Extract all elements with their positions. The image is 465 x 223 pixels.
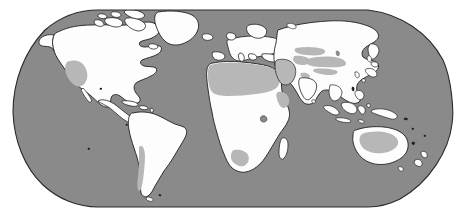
newfoundland — [149, 44, 159, 49]
arid-sahara — [208, 62, 280, 96]
korea-peninsula — [355, 72, 359, 78]
arctic-islet-a — [111, 12, 121, 18]
lake-victoria — [260, 116, 267, 122]
iceland-landmass — [202, 34, 213, 41]
italy-peninsula — [238, 53, 244, 61]
moluccas-islet — [367, 104, 371, 108]
world-map-canvas — [0, 0, 465, 223]
kyushu-island — [362, 79, 366, 83]
world-map-figure — [0, 0, 465, 223]
lesser-antilles — [150, 108, 153, 112]
british-isles — [227, 33, 237, 40]
sri-lanka-island — [312, 100, 316, 104]
